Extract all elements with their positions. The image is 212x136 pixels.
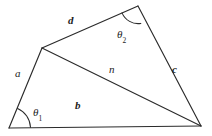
angle-theta-2-arc	[122, 13, 141, 24]
figure-canvas	[0, 0, 212, 136]
edge-label-b: b	[75, 100, 81, 111]
angle-label-theta-1: θ1	[33, 107, 42, 121]
geometry-figure: a d c b n θ1 θ2	[0, 0, 212, 136]
theta-1-subscript: 1	[38, 114, 42, 123]
angle-theta-1-arc	[18, 109, 31, 128]
diagonal-label-n: n	[109, 64, 115, 75]
edge-label-c: c	[172, 64, 177, 75]
edge-c-line	[138, 6, 201, 126]
edge-label-a: a	[15, 68, 21, 79]
diagonal-n-line	[42, 48, 201, 126]
edge-label-d: d	[68, 15, 74, 26]
edge-b-line	[9, 126, 201, 128]
theta-2-subscript: 2	[122, 36, 126, 45]
angle-label-theta-2: θ2	[117, 29, 126, 43]
